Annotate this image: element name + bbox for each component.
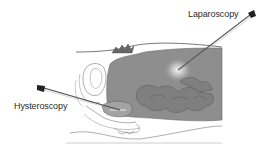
- anatomy-diagram: Laparoscopy Hysteroscopy: [0, 0, 265, 150]
- laparoscopy-label: Laparoscopy: [188, 9, 238, 19]
- pubic-hair: [112, 44, 134, 53]
- hysteroscopy-label: Hysteroscopy: [14, 101, 67, 111]
